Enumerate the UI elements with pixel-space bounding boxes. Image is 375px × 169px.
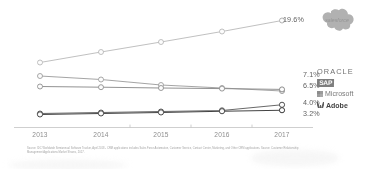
x-tick-label-2015: 2015 bbox=[153, 131, 168, 138]
oracle-logo: ORACLE bbox=[317, 67, 354, 76]
value-label-salesforce: 19.6% bbox=[283, 15, 304, 24]
series-salesforce bbox=[38, 18, 285, 65]
x-tick-label-2017: 2017 bbox=[274, 131, 289, 138]
chart-screenshot: 19.6% 7.1% 6.5% 4.0% 3.2% 2013 2014 2015… bbox=[0, 0, 375, 169]
x-tick-label-2014: 2014 bbox=[93, 131, 108, 138]
salesforce-wordmark: salesforce bbox=[325, 17, 349, 23]
legend: ORACLE SAP Microsoft Adobe bbox=[317, 66, 375, 111]
footnote: Source: IDC Worldwide Semiannual Softwar… bbox=[27, 147, 307, 154]
legend-item-oracle: ORACLE bbox=[317, 66, 375, 77]
series-sap bbox=[38, 84, 285, 92]
x-tick-label-2013: 2013 bbox=[32, 131, 47, 138]
sap-logo: SAP bbox=[317, 79, 334, 87]
microsoft-label: Microsoft bbox=[325, 90, 353, 97]
adobe-logo bbox=[317, 102, 324, 109]
adobe-label: Adobe bbox=[326, 102, 348, 109]
x-tick-label-2016: 2016 bbox=[214, 131, 229, 138]
legend-item-sap: SAP bbox=[317, 77, 375, 88]
legend-item-adobe: Adobe bbox=[317, 100, 375, 111]
legend-item-microsoft: Microsoft bbox=[317, 88, 375, 99]
microsoft-logo bbox=[317, 91, 323, 97]
salesforce-cloud-logo: salesforce bbox=[313, 6, 361, 34]
